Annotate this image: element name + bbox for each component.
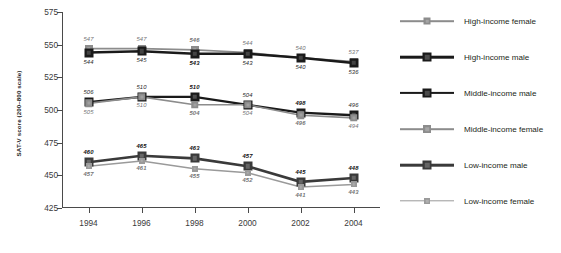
- legend-item[interactable]: Middle-income male: [400, 86, 536, 100]
- legend-item[interactable]: High-income male: [400, 50, 529, 64]
- data-point-label: 545: [137, 57, 147, 63]
- data-point-label: 546: [190, 37, 200, 43]
- data-point-label: 445: [296, 169, 306, 175]
- data-point-label: 457: [243, 153, 253, 159]
- data-point-marker-core: [245, 164, 250, 169]
- legend-item[interactable]: Middle-income female: [400, 122, 543, 136]
- data-point-marker-core: [192, 156, 197, 161]
- data-point-label: 448: [349, 165, 359, 171]
- data-point-label: 540: [296, 64, 306, 70]
- data-point-label: 547: [137, 36, 147, 42]
- data-point-marker-core: [140, 95, 143, 98]
- data-point-marker-core: [140, 160, 143, 163]
- x-tick: [301, 208, 302, 213]
- data-point-label: 461: [137, 165, 147, 171]
- x-tick-label: 2000: [218, 218, 278, 228]
- data-point-label: 496: [296, 120, 306, 126]
- data-point-marker-core: [87, 102, 90, 105]
- legend-swatch: [400, 50, 454, 64]
- data-point-marker-core: [246, 171, 249, 174]
- data-point-label: 460: [84, 149, 94, 155]
- y-tick-label: 450: [18, 170, 58, 180]
- data-point-marker-core: [351, 176, 356, 181]
- data-point-label: 537: [349, 49, 359, 55]
- x-tick-label: 2002: [271, 218, 331, 228]
- legend-item[interactable]: High-income female: [400, 14, 536, 28]
- legend-label: Low-income female: [464, 197, 534, 206]
- series-line: [89, 97, 354, 115]
- data-point-label: 496: [349, 102, 359, 108]
- data-point-label: 441: [296, 192, 306, 198]
- legend-label: High-income female: [464, 17, 536, 26]
- data-point-label: 504: [243, 110, 253, 116]
- chart-figure: SAT-V score (200–800 scale) 425450475500…: [0, 0, 561, 253]
- x-tick: [142, 208, 143, 213]
- x-tick: [195, 208, 196, 213]
- data-point-label: 498: [296, 100, 306, 106]
- data-point-label: 443: [349, 189, 359, 195]
- data-point-label: 543: [190, 60, 200, 66]
- legend-label: High-income male: [464, 53, 529, 62]
- y-tick-label: 425: [18, 203, 58, 213]
- series-line: [89, 161, 354, 187]
- legend-marker-core: [425, 91, 430, 96]
- legend-swatch: [400, 86, 454, 100]
- x-tick: [354, 208, 355, 213]
- data-point-marker-core: [352, 183, 355, 186]
- data-point-label: 506: [84, 89, 94, 95]
- data-point-label: 465: [137, 143, 147, 149]
- x-tick: [89, 208, 90, 213]
- legend-marker-core: [426, 20, 429, 23]
- data-point-label: 452: [243, 177, 253, 183]
- data-point-marker-core: [87, 165, 90, 168]
- series-line: [89, 51, 354, 63]
- legend-swatch: [400, 194, 454, 208]
- data-point-marker-core: [299, 114, 302, 117]
- data-point-label: 510: [137, 84, 147, 90]
- data-point-label: 510: [190, 84, 200, 90]
- data-point-label: 540: [296, 45, 306, 51]
- data-point-label: 504: [243, 92, 253, 98]
- x-tick-label: 2004: [324, 218, 384, 228]
- legend-label: Middle-income male: [464, 89, 536, 98]
- legend-item[interactable]: Low-income male: [400, 158, 527, 172]
- data-point-marker-core: [193, 168, 196, 171]
- data-point-marker-core: [245, 52, 250, 57]
- y-tick-label: 550: [18, 40, 58, 50]
- data-point-marker-core: [351, 61, 356, 66]
- legend-swatch: [400, 158, 454, 172]
- y-tick-label: 525: [18, 72, 58, 82]
- legend-swatch: [400, 14, 454, 28]
- y-tick-label: 500: [18, 105, 58, 115]
- legend-marker-core: [425, 127, 429, 131]
- legend-marker-core: [425, 55, 430, 60]
- y-tick-label: 475: [18, 138, 58, 148]
- legend-item[interactable]: Low-income female: [400, 194, 534, 208]
- plot-area: 425450475500525550575 199419961998200020…: [62, 12, 380, 208]
- data-point-label: 510: [137, 102, 147, 108]
- data-point-marker-core: [192, 95, 197, 100]
- x-tick-label: 1998: [165, 218, 225, 228]
- data-point-label: 547: [84, 36, 94, 42]
- data-point-label: 504: [190, 110, 200, 116]
- data-point-marker-core: [86, 50, 91, 55]
- legend-swatch: [400, 122, 454, 136]
- data-point-marker-core: [298, 55, 303, 60]
- data-point-label: 463: [190, 145, 200, 151]
- legend-marker-core: [426, 200, 429, 203]
- data-point-marker-core: [246, 103, 249, 106]
- data-point-marker-core: [352, 116, 355, 119]
- legend-marker-core: [425, 163, 430, 168]
- data-point-label: 494: [349, 123, 359, 129]
- series-lines: [62, 12, 380, 208]
- data-point-marker-core: [139, 49, 144, 54]
- data-point-label: 543: [243, 60, 253, 66]
- y-tick-label: 575: [18, 7, 58, 17]
- data-point-label: 505: [84, 109, 94, 115]
- data-point-marker-core: [299, 186, 302, 189]
- legend-label: Middle-income female: [464, 125, 543, 134]
- data-point-marker-core: [193, 103, 196, 106]
- x-tick-label: 1994: [59, 218, 119, 228]
- x-tick-label: 1996: [112, 218, 172, 228]
- series-line: [89, 156, 354, 182]
